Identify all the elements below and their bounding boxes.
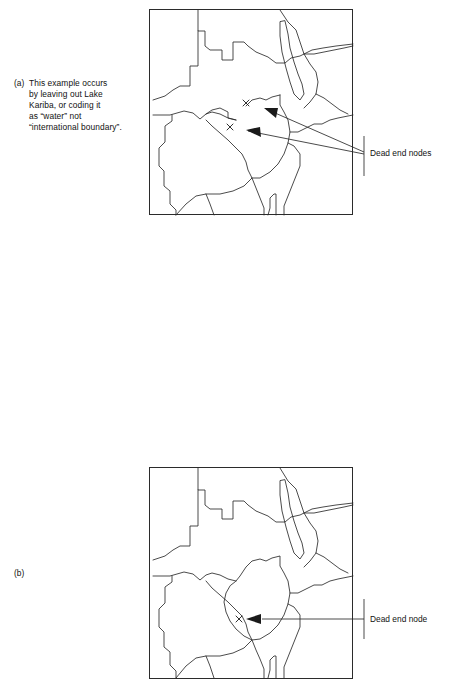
caption-line: “international boundary”. bbox=[14, 122, 150, 133]
figure-root: (a)This example occurs by leaving out La… bbox=[0, 0, 459, 698]
caption-line: (a)This example occurs bbox=[14, 78, 150, 89]
panel-a: (a)This example occurs by leaving out La… bbox=[0, 0, 459, 232]
caption-line-text: This example occurs bbox=[29, 78, 107, 88]
caption-line-text: “international boundary”. bbox=[29, 122, 122, 132]
caption-line-text: Kariba, or coding it bbox=[29, 100, 101, 110]
panel-a-caption: (a)This example occurs by leaving out La… bbox=[14, 78, 150, 133]
panel-c: (c) bbox=[0, 472, 459, 698]
panel-a-map: Dead end nodes bbox=[148, 8, 459, 218]
caption-line: by leaving out Lake bbox=[14, 89, 150, 100]
caption-line: as “water” not bbox=[14, 111, 150, 122]
caption-line-text: by leaving out Lake bbox=[29, 89, 103, 99]
panel-b: (b) bbox=[0, 232, 459, 472]
caption-line-text: as “water” not bbox=[29, 111, 81, 121]
panel-a-annotation: Dead end nodes bbox=[370, 148, 431, 158]
caption-line: Kariba, or coding it bbox=[14, 100, 150, 111]
panel-a-letter: (a) bbox=[14, 78, 29, 89]
panel-a-map-svg: Dead end nodes bbox=[148, 8, 459, 218]
